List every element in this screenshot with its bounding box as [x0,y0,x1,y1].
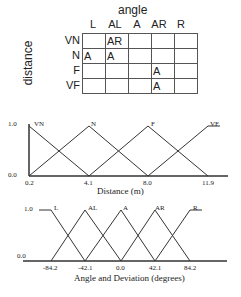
x-tick-label: -84.2 [43,264,58,272]
x-tick-label: 84.2 [184,264,196,272]
x-tick-label: -42.1 [78,264,93,272]
x-tick-label: 42.1 [149,264,161,272]
x-tick-label: 0.0 [116,264,125,272]
y-tick-label: 0.0 [17,252,26,260]
series-label-ar: AR [155,204,165,212]
angle-chart-lines [0,0,241,297]
series-label-l: L [54,204,58,212]
y-tick-label: 1.0 [24,205,33,213]
series-label-r: R [193,204,198,212]
series-label-a: A [123,204,128,212]
series-label-al: AL [88,204,97,212]
x-axis-title: Angle and Deviation (degrees) [74,273,185,283]
